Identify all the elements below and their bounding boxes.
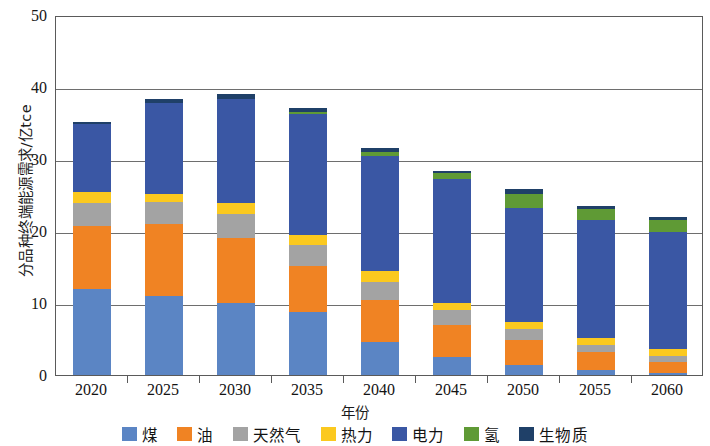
bar-2030 xyxy=(217,94,255,375)
legend-swatch-icon xyxy=(519,427,534,441)
bar-segment-热力 xyxy=(73,192,111,203)
bar-2035 xyxy=(289,108,327,375)
x-tick-label-2035: 2035 xyxy=(267,381,347,399)
y-tick-label: 0 xyxy=(1,367,47,385)
bar-segment-电力 xyxy=(433,179,471,303)
legend-label: 电力 xyxy=(412,423,445,445)
legend-swatch-icon xyxy=(233,427,248,441)
bar-segment-电力 xyxy=(649,232,687,349)
x-tick-label-2060: 2060 xyxy=(627,381,707,399)
bar-segment-电力 xyxy=(73,124,111,192)
legend-label: 生物质 xyxy=(539,423,588,445)
bar-segment-天然气 xyxy=(361,282,399,300)
legend-swatch-icon xyxy=(122,427,137,441)
bar-segment-油 xyxy=(289,266,327,313)
bar-segment-煤 xyxy=(145,296,183,375)
legend-swatch-icon xyxy=(392,427,407,441)
bar-segment-油 xyxy=(649,362,687,373)
legend-label: 油 xyxy=(197,423,213,445)
legend-item-油[interactable]: 油 xyxy=(177,423,213,445)
bar-segment-煤 xyxy=(649,373,687,375)
bar-segment-油 xyxy=(433,325,471,357)
bar-segment-电力 xyxy=(577,220,615,339)
bar-segment-热力 xyxy=(145,194,183,203)
bar-2045 xyxy=(433,171,471,375)
bar-segment-电力 xyxy=(145,103,183,194)
bar-segment-煤 xyxy=(217,303,255,375)
bar-segment-天然气 xyxy=(73,203,111,226)
bar-segment-天然气 xyxy=(433,310,471,324)
x-tick-label-2020: 2020 xyxy=(51,381,131,399)
bar-segment-天然气 xyxy=(505,329,543,340)
legend-label: 天然气 xyxy=(253,423,302,445)
bar-2050 xyxy=(505,189,543,375)
bar-2055 xyxy=(577,206,615,375)
chart-figure: 分品种终端能源需求/亿tce 01020304050 2020202520302… xyxy=(0,0,710,446)
x-axis-title: 年份 xyxy=(0,401,710,422)
y-tick-label: 30 xyxy=(1,151,47,169)
y-tick-label: 50 xyxy=(1,7,47,25)
y-tick-label: 10 xyxy=(1,295,47,313)
legend-swatch-icon xyxy=(177,427,192,441)
bar-segment-热力 xyxy=(505,322,543,329)
gridline xyxy=(56,89,702,90)
bar-segment-天然气 xyxy=(577,345,615,352)
legend-label: 煤 xyxy=(142,423,158,445)
bar-segment-热力 xyxy=(361,271,399,282)
y-axis-title: 分品种终端能源需求/亿tce xyxy=(14,71,35,311)
bar-segment-煤 xyxy=(73,289,111,375)
bar-segment-热力 xyxy=(649,349,687,356)
bar-segment-油 xyxy=(577,352,615,370)
bar-2025 xyxy=(145,99,183,375)
bar-segment-油 xyxy=(217,238,255,303)
legend-label: 氢 xyxy=(484,423,500,445)
chart-legend: 煤油天然气热力电力氢生物质 xyxy=(0,423,710,445)
bar-2060 xyxy=(649,217,687,375)
legend-label: 热力 xyxy=(341,423,374,445)
bar-segment-电力 xyxy=(505,208,543,322)
bar-segment-氢 xyxy=(649,220,687,232)
bar-segment-煤 xyxy=(361,342,399,375)
bar-segment-天然气 xyxy=(217,214,255,238)
legend-swatch-icon xyxy=(464,427,479,441)
legend-item-天然气[interactable]: 天然气 xyxy=(233,423,302,445)
bar-segment-电力 xyxy=(289,114,327,234)
bar-segment-油 xyxy=(361,300,399,342)
bar-segment-电力 xyxy=(361,156,399,271)
x-tick-label-2050: 2050 xyxy=(483,381,563,399)
y-tick-label: 40 xyxy=(1,79,47,97)
bar-segment-煤 xyxy=(433,357,471,375)
bar-segment-天然气 xyxy=(145,202,183,224)
legend-swatch-icon xyxy=(321,427,336,441)
bar-segment-热力 xyxy=(217,203,255,215)
bar-2040 xyxy=(361,148,399,375)
bar-segment-热力 xyxy=(289,235,327,246)
legend-item-煤[interactable]: 煤 xyxy=(122,423,158,445)
bar-segment-油 xyxy=(145,224,183,296)
x-tick-label-2045: 2045 xyxy=(411,381,491,399)
x-tick-label-2025: 2025 xyxy=(123,381,203,399)
legend-item-氢[interactable]: 氢 xyxy=(464,423,500,445)
x-tick-label-2040: 2040 xyxy=(339,381,419,399)
legend-item-生物质[interactable]: 生物质 xyxy=(519,423,588,445)
bar-segment-天然气 xyxy=(289,245,327,265)
bar-segment-氢 xyxy=(505,194,543,208)
bar-segment-煤 xyxy=(289,312,327,375)
bar-segment-热力 xyxy=(433,303,471,310)
bar-segment-煤 xyxy=(577,370,615,375)
bar-segment-电力 xyxy=(217,99,255,203)
x-tick-label-2055: 2055 xyxy=(555,381,635,399)
bar-segment-氢 xyxy=(577,209,615,220)
bar-2020 xyxy=(73,122,111,375)
bar-segment-油 xyxy=(505,340,543,365)
y-tick-label: 20 xyxy=(1,223,47,241)
legend-item-热力[interactable]: 热力 xyxy=(321,423,374,445)
x-tick-label-2030: 2030 xyxy=(195,381,275,399)
bar-segment-油 xyxy=(73,226,111,289)
legend-item-电力[interactable]: 电力 xyxy=(392,423,445,445)
plot-area xyxy=(55,16,703,376)
bar-segment-煤 xyxy=(505,365,543,375)
